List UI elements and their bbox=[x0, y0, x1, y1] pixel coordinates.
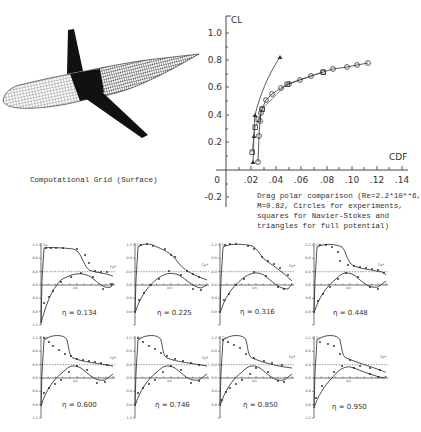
svg-text:0.8: 0.8 bbox=[127, 403, 132, 407]
eta-label-4: η = 0.448 bbox=[333, 309, 368, 317]
svg-text:Cp*: Cp* bbox=[110, 356, 117, 360]
svg-text:-0.8: -0.8 bbox=[210, 349, 217, 353]
svg-text:x/c: x/c bbox=[167, 379, 172, 383]
svg-text:x/c: x/c bbox=[252, 379, 257, 383]
svg-text:-0.4: -0.4 bbox=[304, 270, 311, 274]
svg-text:1.2: 1.2 bbox=[127, 416, 132, 420]
svg-text:-1.2: -1.2 bbox=[210, 243, 217, 247]
svg-text:0.0: 0.0 bbox=[127, 283, 132, 287]
svg-text:0.0: 0.0 bbox=[127, 376, 132, 380]
svg-text:0.0: 0.0 bbox=[33, 283, 38, 287]
svg-text:1.2: 1.2 bbox=[306, 416, 311, 420]
svg-text:-1.2: -1.2 bbox=[125, 243, 132, 247]
eta-label-1: η = 0.134 bbox=[62, 309, 97, 317]
svg-text:0.8: 0.8 bbox=[33, 403, 38, 407]
svg-text:0.4: 0.4 bbox=[306, 296, 311, 300]
svg-text:-0.8: -0.8 bbox=[210, 256, 217, 260]
svg-text:Cp: Cp bbox=[316, 243, 321, 247]
svg-text:0.4: 0.4 bbox=[127, 389, 132, 393]
svg-text:x/c: x/c bbox=[73, 286, 78, 290]
svg-text:x/c: x/c bbox=[167, 286, 172, 290]
eta-label-6: η = 0.746 bbox=[155, 401, 190, 409]
svg-text:0.8: 0.8 bbox=[212, 403, 217, 407]
svg-text:-0.8: -0.8 bbox=[125, 349, 132, 353]
svg-text:x/c: x/c bbox=[252, 286, 257, 290]
eta-label-3: η = 0.316 bbox=[240, 308, 275, 316]
svg-text:0.8: 0.8 bbox=[33, 310, 38, 314]
eta-label-7: η = 0.850 bbox=[243, 401, 278, 409]
eta-label-2: η = 0.225 bbox=[157, 309, 192, 317]
svg-text:-0.4: -0.4 bbox=[31, 363, 38, 367]
svg-text:Cp: Cp bbox=[43, 336, 48, 340]
svg-text:Cp*: Cp* bbox=[110, 265, 117, 269]
svg-text:-0.4: -0.4 bbox=[304, 363, 311, 367]
svg-text:-0.4: -0.4 bbox=[31, 270, 38, 274]
svg-text:-0.8: -0.8 bbox=[125, 256, 132, 260]
svg-text:-1.2: -1.2 bbox=[304, 243, 311, 247]
svg-text:-1.2: -1.2 bbox=[304, 336, 311, 340]
eta-label-8: η = 0.950 bbox=[332, 403, 367, 411]
svg-text:-0.8: -0.8 bbox=[304, 256, 311, 260]
svg-text:0.8: 0.8 bbox=[212, 310, 217, 314]
svg-text:Cp*: Cp* bbox=[289, 264, 296, 268]
svg-text:0.0: 0.0 bbox=[33, 376, 38, 380]
svg-text:-1.2: -1.2 bbox=[210, 336, 217, 340]
svg-text:Cp: Cp bbox=[316, 336, 321, 340]
eta-label-5: η = 0.600 bbox=[62, 401, 97, 409]
svg-text:Cp: Cp bbox=[43, 243, 48, 247]
svg-text:0.8: 0.8 bbox=[306, 310, 311, 314]
svg-text:0.0: 0.0 bbox=[306, 283, 311, 287]
svg-text:0.0: 0.0 bbox=[306, 376, 311, 380]
svg-text:0.4: 0.4 bbox=[212, 389, 217, 393]
svg-text:-0.8: -0.8 bbox=[31, 349, 38, 353]
svg-text:Cp*: Cp* bbox=[202, 356, 209, 360]
svg-text:-1.2: -1.2 bbox=[31, 336, 38, 340]
svg-text:x/c: x/c bbox=[73, 379, 78, 383]
svg-text:-1.2: -1.2 bbox=[31, 243, 38, 247]
svg-text:-0.4: -0.4 bbox=[125, 270, 132, 274]
svg-text:-0.4: -0.4 bbox=[125, 363, 132, 367]
svg-text:1.2: 1.2 bbox=[33, 323, 38, 327]
svg-text:Cp: Cp bbox=[137, 336, 142, 340]
svg-text:0.8: 0.8 bbox=[127, 310, 132, 314]
svg-text:Cp*: Cp* bbox=[202, 263, 209, 267]
svg-text:0.4: 0.4 bbox=[33, 389, 38, 393]
svg-text:0.4: 0.4 bbox=[212, 296, 217, 300]
svg-text:x/c: x/c bbox=[346, 379, 351, 383]
svg-text:0.0: 0.0 bbox=[212, 376, 217, 380]
svg-text:x/c: x/c bbox=[346, 286, 351, 290]
svg-text:0.4: 0.4 bbox=[306, 389, 311, 393]
svg-text:Cp*: Cp* bbox=[378, 263, 385, 267]
svg-text:0.4: 0.4 bbox=[127, 296, 132, 300]
svg-text:Cp: Cp bbox=[222, 243, 227, 247]
svg-text:1.2: 1.2 bbox=[33, 416, 38, 420]
svg-text:Cp*: Cp* bbox=[380, 355, 387, 359]
cp-distribution-panels: -1.2 -0.8 -0.4 0.0 0.4 0.8 1.2 Cp x/c Cp… bbox=[0, 0, 421, 432]
svg-text:-0.4: -0.4 bbox=[210, 363, 217, 367]
svg-text:0.4: 0.4 bbox=[33, 296, 38, 300]
svg-text:-0.8: -0.8 bbox=[304, 349, 311, 353]
svg-text:-0.4: -0.4 bbox=[210, 270, 217, 274]
svg-text:0.8: 0.8 bbox=[306, 403, 311, 407]
svg-text:Cp*: Cp* bbox=[289, 355, 296, 359]
svg-text:Cp: Cp bbox=[222, 336, 227, 340]
svg-text:0.0: 0.0 bbox=[212, 283, 217, 287]
svg-text:-1.2: -1.2 bbox=[125, 336, 132, 340]
svg-text:Cp: Cp bbox=[137, 243, 142, 247]
svg-text:-0.8: -0.8 bbox=[31, 256, 38, 260]
